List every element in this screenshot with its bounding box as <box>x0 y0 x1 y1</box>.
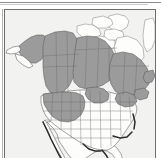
top-rule-primary <box>0 2 161 3</box>
north-america-map <box>5 10 155 158</box>
map-panel <box>4 9 156 158</box>
range-map-figure <box>0 0 161 158</box>
range-western-canada <box>43 31 79 94</box>
greenland-margin <box>143 18 155 52</box>
range-newfoundland <box>143 70 155 83</box>
top-rule-secondary <box>0 4 148 5</box>
alaska-panhandle-west <box>6 46 21 54</box>
panel-left-edge <box>2 9 3 158</box>
range-maritimes <box>134 88 149 100</box>
